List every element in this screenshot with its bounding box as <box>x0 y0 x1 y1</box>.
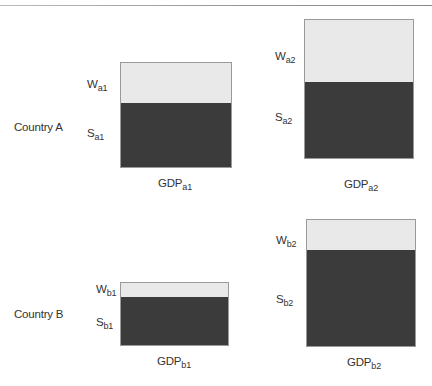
surplus-label-a1: Sa1 <box>87 127 104 142</box>
gdp-label-a2: GDPa2 <box>344 178 378 193</box>
wages-segment-a1 <box>121 63 231 105</box>
surplus-label-b1: Sb1 <box>96 316 113 331</box>
top-rule <box>0 5 432 6</box>
wages-label-b2: Wb2 <box>276 234 296 249</box>
gdp-box-b1 <box>120 282 229 346</box>
surplus-label-b2: Sb2 <box>276 293 293 308</box>
wages-label-a2: Wa2 <box>275 50 295 65</box>
wages-label-a1: Wa1 <box>87 78 107 93</box>
wages-label-b1: Wb1 <box>96 283 116 298</box>
surplus-segment-a2 <box>305 82 413 158</box>
gdp-box-a1 <box>120 62 232 168</box>
surplus-segment-b1 <box>121 297 228 345</box>
country-b-label: Country B <box>14 308 63 320</box>
wages-segment-a2 <box>305 20 413 84</box>
surplus-label-a2: Sa2 <box>275 111 292 126</box>
wages-segment-b2 <box>307 220 415 252</box>
gdp-box-b2 <box>306 219 416 347</box>
country-a-label: Country A <box>14 121 63 133</box>
surplus-segment-b2 <box>307 250 415 346</box>
gdp-label-b1: GDPb1 <box>157 355 191 370</box>
surplus-segment-a1 <box>121 103 231 167</box>
gdp-label-b2: GDPb2 <box>347 356 381 371</box>
gdp-label-a1: GDPa1 <box>158 177 192 192</box>
gdp-box-a2 <box>304 19 414 159</box>
